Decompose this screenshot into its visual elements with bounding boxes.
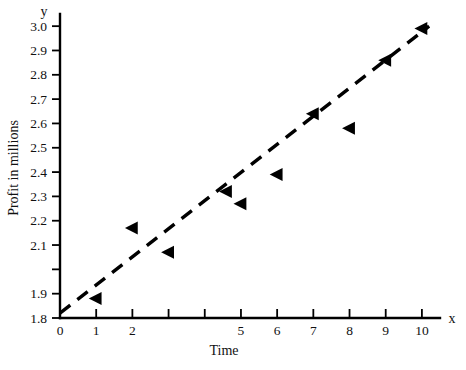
data-point-markers xyxy=(89,22,428,305)
y-tick-label: 2.7 xyxy=(30,92,47,107)
data-point-marker xyxy=(234,197,247,210)
y-tick-label: 2.3 xyxy=(30,189,47,204)
x-tick-label: 0 xyxy=(57,323,64,338)
x-tick-label: 8 xyxy=(346,323,353,338)
y-tick-label: 2.8 xyxy=(30,67,47,82)
y-tick-label: 2.6 xyxy=(30,116,47,131)
trend-line xyxy=(60,26,429,313)
y-tick-label: 1.8 xyxy=(30,311,47,326)
x-tick-label: 1 xyxy=(93,323,100,338)
data-point-marker xyxy=(125,222,138,235)
x-tick-label: 9 xyxy=(382,323,389,338)
x-tick-label: 7 xyxy=(310,323,317,338)
y-tick-label: 2.9 xyxy=(30,43,47,58)
y-tick-label: 2.4 xyxy=(30,165,47,180)
x-tick-label: 6 xyxy=(274,323,281,338)
x-tick-label: 10 xyxy=(415,323,429,338)
y-tick-label: 2.2 xyxy=(30,213,47,228)
y-tick-label: 1.9 xyxy=(30,286,47,301)
x-axis-letter: x xyxy=(449,311,456,326)
y-axis-letter: y xyxy=(41,4,48,19)
data-point-marker xyxy=(342,122,355,135)
y-tick-label: 2.5 xyxy=(30,140,47,155)
y-tick-label: 3.0 xyxy=(30,19,47,34)
scatter-plot-figure: 1.81.92.12.22.32.42.52.62.72.82.93.0 012… xyxy=(0,0,466,370)
x-tick-label: 5 xyxy=(238,323,245,338)
y-tick-label: 2.1 xyxy=(30,238,47,253)
data-point-marker xyxy=(270,168,283,181)
y-axis-ticks: 1.81.92.12.22.32.42.52.62.72.82.93.0 xyxy=(30,19,60,326)
data-point-marker xyxy=(414,22,427,35)
trend-line-group xyxy=(60,26,429,313)
x-tick-label: 2 xyxy=(129,323,136,338)
x-axis-title: Time xyxy=(209,343,238,358)
data-point-marker xyxy=(89,292,102,305)
plot-canvas: 1.81.92.12.22.32.42.52.62.72.82.93.0 012… xyxy=(0,0,466,370)
x-axis-ticks: 0125678910 xyxy=(57,309,429,338)
data-point-marker xyxy=(161,246,174,259)
y-axis-title: Profit in millions xyxy=(6,120,21,216)
